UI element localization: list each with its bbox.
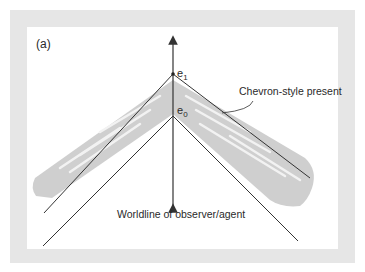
chevron-diagram: (a) e1 e0 Chevron-style present Worldlin…: [0, 0, 365, 272]
event-e1-dot: [171, 72, 175, 76]
event-e1-label: e1: [177, 67, 188, 82]
worldline-annotation: Worldline of observer/agent: [117, 208, 245, 220]
present-leader-line: [222, 101, 253, 113]
present-annotation: Chevron-style present: [239, 85, 342, 97]
panel-label: (a): [36, 37, 51, 51]
